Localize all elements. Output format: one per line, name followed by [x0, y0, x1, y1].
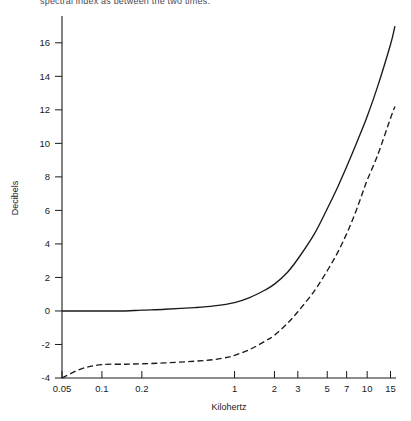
y-tick-label: 16	[39, 37, 50, 48]
data-curves	[62, 26, 395, 378]
x-tick-label: 2	[272, 383, 277, 394]
y-tick-label: 6	[45, 205, 50, 216]
x-tick-label: 15	[385, 383, 396, 394]
y-tick-label: 12	[39, 104, 50, 115]
x-tick-label: 0.2	[135, 383, 148, 394]
cut-off-header-text: spectral index as between the two times.	[40, 0, 340, 6]
x-axis-ticks	[62, 371, 391, 378]
x-tick-label: 7	[344, 383, 349, 394]
y-tick-label: 4	[45, 238, 50, 249]
y-tick-label: -4	[42, 372, 50, 383]
y-axis-ticks	[55, 43, 62, 378]
x-tick-label: 1	[232, 383, 237, 394]
x-axis-group: 0.050.10.2123571015 Kilohertz	[53, 371, 396, 412]
x-tick-label: 10	[362, 383, 373, 394]
x-tick-label: 3	[295, 383, 300, 394]
x-tick-label: 0.1	[95, 383, 108, 394]
y-tick-label: 2	[45, 272, 50, 283]
y-tick-label: -2	[42, 339, 50, 350]
y-tick-label: 10	[39, 138, 50, 149]
y-tick-label: 0	[45, 305, 50, 316]
chart-figure: spectral index as between the two times.…	[0, 0, 411, 421]
x-tick-label: 0.05	[53, 383, 72, 394]
series-dashed-curve	[62, 107, 395, 379]
y-axis-title: Decibels	[10, 180, 20, 215]
y-tick-label: 14	[39, 71, 50, 82]
series-solid-curve	[62, 26, 395, 311]
x-axis-tick-labels: 0.050.10.2123571015	[53, 383, 396, 394]
x-axis-title: Kilohertz	[211, 402, 247, 412]
y-tick-label: 8	[45, 171, 50, 182]
decibels-vs-kilohertz-plot: -4-20246810121416 Decibels 0.050.10.2123…	[0, 0, 411, 421]
y-axis-tick-labels: -4-20246810121416	[39, 37, 50, 383]
x-tick-label: 5	[325, 383, 330, 394]
y-axis-group: -4-20246810121416 Decibels	[10, 16, 62, 383]
